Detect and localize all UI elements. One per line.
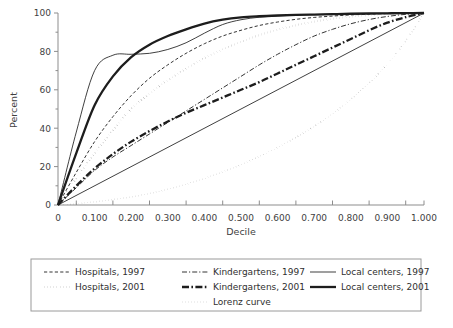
x-tick-label: 0.500 bbox=[228, 213, 254, 223]
x-axis-ticks bbox=[76, 201, 424, 206]
y-axis-tick-labels: 020406080100 bbox=[34, 8, 51, 210]
chart-axes: 020406080100 00.1000.2000.3000.4000.5000… bbox=[34, 8, 437, 223]
legend-label-hospitals-1997: Hospitals, 1997 bbox=[75, 267, 145, 277]
x-tick-label: 0 bbox=[55, 213, 61, 223]
y-axis-title: Percent bbox=[8, 92, 19, 128]
y-tick-label: 80 bbox=[40, 47, 52, 57]
x-tick-label: 0.900 bbox=[375, 213, 401, 223]
legend-label-lorenz-curve: Lorenz curve bbox=[213, 297, 271, 307]
y-tick-label: 20 bbox=[40, 162, 52, 172]
x-tick-label: 0.100 bbox=[82, 213, 108, 223]
lorenz-concentration-chart: 020406080100 00.1000.2000.3000.4000.5000… bbox=[0, 0, 453, 328]
legend-label-local-centers-1997: Local centers, 1997 bbox=[341, 267, 429, 277]
y-tick-label: 60 bbox=[40, 85, 52, 95]
reference-diagonal-line bbox=[58, 13, 424, 205]
y-tick-label: 0 bbox=[45, 200, 51, 210]
legend-label-kindergartens-1997: Kindergartens, 1997 bbox=[213, 267, 305, 277]
chart-figure: 020406080100 00.1000.2000.3000.4000.5000… bbox=[0, 0, 453, 328]
legend-label-kindergartens-2001: Kindergartens, 2001 bbox=[213, 282, 305, 292]
legend-label-hospitals-2001: Hospitals, 2001 bbox=[75, 282, 145, 292]
x-tick-label: 0.300 bbox=[155, 213, 181, 223]
y-axis-ticks bbox=[54, 13, 58, 205]
x-axis-tick-labels: 00.1000.2000.3000.4000.5000.6000.7000.80… bbox=[55, 213, 437, 223]
x-tick-label: 0.400 bbox=[192, 213, 218, 223]
x-tick-label: 0.700 bbox=[301, 213, 327, 223]
y-tick-label: 40 bbox=[40, 124, 52, 134]
chart-plot-area bbox=[58, 13, 424, 205]
x-axis-title: Decile bbox=[226, 226, 256, 237]
x-tick-label: 0.600 bbox=[265, 213, 291, 223]
y-tick-label: 100 bbox=[34, 8, 51, 18]
x-tick-label: 0.200 bbox=[118, 213, 144, 223]
legend-label-local-centers-2001: Local centers, 2001 bbox=[341, 282, 429, 292]
chart-legend: Hospitals, 1997Hospitals, 2001Kindergart… bbox=[31, 259, 429, 311]
x-tick-label: 1.000 bbox=[411, 213, 437, 223]
x-tick-label: 0.800 bbox=[338, 213, 364, 223]
